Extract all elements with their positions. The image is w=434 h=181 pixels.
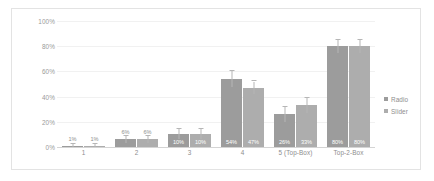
error-bar: [178, 129, 179, 139]
error-bar-cap: [70, 143, 75, 144]
bar-group: 26%33%: [269, 21, 322, 147]
legend-item-radio[interactable]: Radio: [384, 93, 408, 105]
bar-slot: 80%: [349, 21, 370, 147]
bar-value-label: 1%: [62, 136, 83, 143]
legend-item-label: Slider: [391, 108, 408, 115]
bar-group: 80%80%: [322, 21, 375, 147]
bar-pair: 6%6%: [110, 21, 163, 147]
bar-pair: 26%33%: [269, 21, 322, 147]
y-axis-tick-label: 80%: [21, 43, 55, 50]
error-bar-cap: [304, 97, 309, 98]
bar-slot: 80%: [327, 21, 348, 147]
x-axis-tick-label: 5 (Top-Box): [269, 149, 322, 156]
error-bar-cap: [176, 128, 181, 129]
bar-slot: 33%: [296, 21, 317, 147]
chart-container: 100%80%60%40%20%0% 1%1%6%6%10%10%54%47%2…: [11, 8, 421, 170]
bar-group: 6%6%: [110, 21, 163, 147]
bar-group: 54%47%: [216, 21, 269, 147]
y-axis-tick-label: 60%: [21, 68, 55, 75]
bar-slot: 6%: [115, 21, 136, 147]
bar-value-label: 6%: [115, 129, 136, 136]
error-bar: [125, 136, 126, 144]
x-axis-tick-label: 1: [57, 149, 110, 156]
error-bar: [231, 71, 232, 86]
bar-groups: 1%1%6%6%10%10%54%47%26%33%80%80%: [57, 21, 375, 147]
bar-slot: 54%: [221, 21, 242, 147]
y-axis-tick-label: 100%: [21, 18, 55, 25]
bar-group: 10%10%: [163, 21, 216, 147]
x-axis-tick-label: 3: [163, 149, 216, 156]
error-bar: [253, 82, 254, 95]
error-bar-cap: [198, 128, 203, 129]
x-axis-tick-label: 4: [216, 149, 269, 156]
bar-group: 1%1%: [57, 21, 110, 147]
y-axis: 100%80%60%40%20%0%: [17, 21, 55, 147]
error-bar-cap: [92, 143, 97, 144]
bar-value-label: 10%: [190, 139, 211, 146]
error-bar: [200, 129, 201, 139]
plot-area: 1%1%6%6%10%10%54%47%26%33%80%80%: [57, 21, 375, 147]
error-bar: [72, 144, 73, 147]
error-bar-cap: [357, 39, 362, 40]
error-bar-cap: [251, 80, 256, 81]
bar-value-label: 54%: [221, 139, 242, 146]
chart-legend: RadioSlider: [384, 93, 408, 117]
gridline: [57, 147, 375, 148]
error-bar: [147, 136, 148, 144]
bar-slot: 1%: [84, 21, 105, 147]
x-axis-tick-label: 2: [110, 149, 163, 156]
bar-value-label: 10%: [168, 139, 189, 146]
error-bar-cap: [335, 39, 340, 40]
legend-item-label: Radio: [391, 96, 408, 103]
error-bar-cap: [229, 70, 234, 71]
x-axis: 12345 (Top-Box)Top-2-Box: [57, 149, 375, 156]
bar-value-label: 80%: [327, 139, 348, 146]
bar-slot: 26%: [274, 21, 295, 147]
error-bar: [94, 144, 95, 147]
bar-value-label: 80%: [349, 139, 370, 146]
bar-pair: 80%80%: [322, 21, 375, 147]
bar-slot: 10%: [168, 21, 189, 147]
bar-value-label: 33%: [296, 139, 317, 146]
bar-pair: 1%1%: [57, 21, 110, 147]
y-axis-tick-label: 0%: [21, 144, 55, 151]
error-bar: [337, 40, 338, 53]
error-bar: [306, 98, 307, 113]
bar-slider[interactable]: [349, 46, 370, 147]
bar-slot: 6%: [137, 21, 158, 147]
bar-slot: 47%: [243, 21, 264, 147]
legend-swatch-icon: [384, 109, 388, 113]
bar-value-label: 26%: [274, 139, 295, 146]
x-axis-tick-label: Top-2-Box: [322, 149, 375, 156]
bar-pair: 54%47%: [216, 21, 269, 147]
bar-value-label: 1%: [84, 136, 105, 143]
bar-slot: 10%: [190, 21, 211, 147]
bar-radio[interactable]: [327, 46, 348, 147]
bar-pair: 10%10%: [163, 21, 216, 147]
error-bar: [284, 107, 285, 122]
error-bar: [359, 40, 360, 53]
bar-slot: 1%: [62, 21, 83, 147]
bar-value-label: 47%: [243, 139, 264, 146]
legend-item-slider[interactable]: Slider: [384, 105, 408, 117]
legend-swatch-icon: [384, 97, 388, 101]
y-axis-tick-label: 20%: [21, 118, 55, 125]
y-axis-tick-label: 40%: [21, 93, 55, 100]
error-bar-cap: [282, 106, 287, 107]
bar-radio[interactable]: [221, 79, 242, 147]
bar-value-label: 6%: [137, 129, 158, 136]
